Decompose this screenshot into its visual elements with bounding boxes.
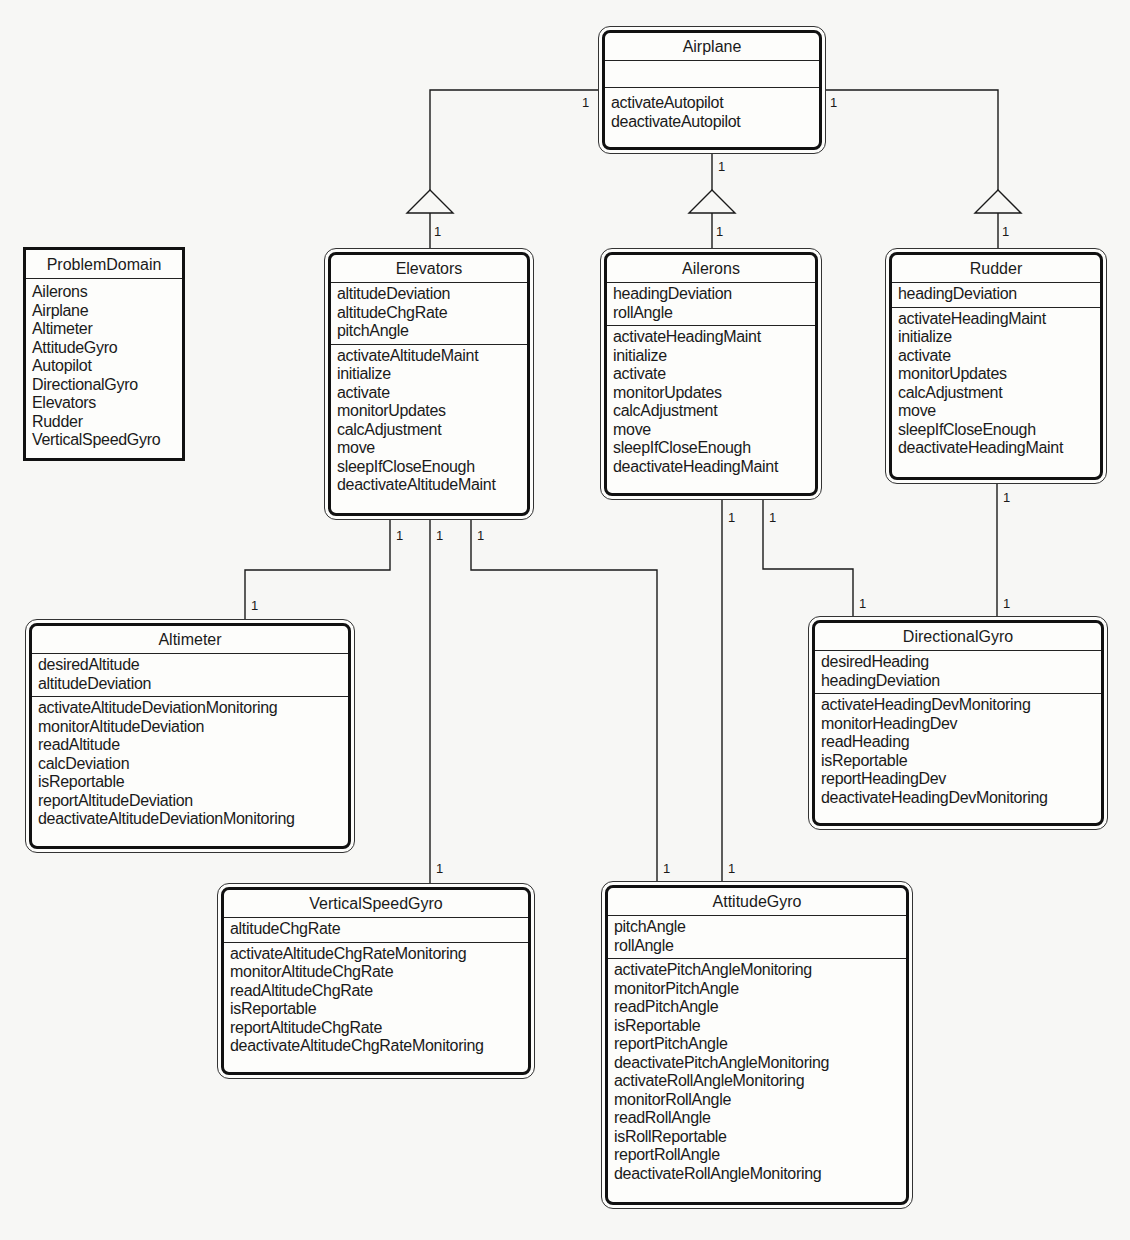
mult-attitude-from-elevators: 1: [663, 862, 670, 875]
class-altimeter[interactable]: Altimeter desiredAltitude altitudeDeviat…: [25, 619, 355, 853]
operation: readRollAngle: [614, 1109, 900, 1128]
class-attributes: [605, 61, 819, 88]
operation: activateHeadingMaint: [898, 310, 1094, 329]
mult-airplane-ailerons: 1: [718, 160, 725, 173]
aggregation-triangle-elevators-icon: [407, 190, 453, 213]
operation: activateAltitudeDeviationMonitoring: [38, 699, 342, 718]
problem-domain-title: ProblemDomain: [26, 250, 182, 279]
operation: reportAltitudeDeviation: [38, 792, 342, 811]
attribute: pitchAngle: [337, 322, 521, 341]
problem-domain-item[interactable]: AttitudeGyro: [32, 339, 176, 358]
operation: calcAdjustment: [337, 421, 521, 440]
operation: readPitchAngle: [614, 998, 900, 1017]
attribute: rollAngle: [614, 937, 900, 956]
class-airplane[interactable]: Airplane activateAutopilot deactivateAut…: [598, 26, 826, 154]
class-rudder[interactable]: Rudder headingDeviation activateHeadingM…: [885, 248, 1107, 484]
attribute: desiredAltitude: [38, 656, 342, 675]
operation: initialize: [613, 347, 809, 366]
class-attributes: pitchAngle rollAngle: [608, 916, 906, 959]
problem-domain-item[interactable]: Airplane: [32, 302, 176, 321]
operation: move: [613, 421, 809, 440]
class-name: Airplane: [605, 33, 819, 61]
class-directional-gyro[interactable]: DirectionalGyro desiredHeading headingDe…: [808, 616, 1108, 830]
operation: reportRollAngle: [614, 1146, 900, 1165]
mult-elevators-altimeter-src: 1: [396, 529, 403, 542]
problem-domain-item[interactable]: Elevators: [32, 394, 176, 413]
class-name: DirectionalGyro: [815, 623, 1101, 651]
operation: isRollReportable: [614, 1128, 900, 1147]
operation: deactivateRollAngleMonitoring: [614, 1165, 900, 1184]
class-name: Elevators: [331, 255, 527, 283]
operation: monitorUpdates: [613, 384, 809, 403]
operation: isReportable: [230, 1000, 522, 1019]
class-attributes: headingDeviation rollAngle: [607, 283, 815, 326]
class-operations: activateAltitudeDeviationMonitoring moni…: [32, 697, 348, 832]
operation: isReportable: [821, 752, 1095, 771]
class-attributes: desiredAltitude altitudeDeviation: [32, 654, 348, 697]
connector-airplane-elevators: [430, 90, 600, 190]
operation: reportHeadingDev: [821, 770, 1095, 789]
connector-elevators-altimeter: [245, 520, 390, 620]
class-attributes: altitudeDeviation altitudeChgRate pitchA…: [331, 283, 527, 345]
operation: monitorUpdates: [337, 402, 521, 421]
problem-domain-item[interactable]: Ailerons: [32, 283, 176, 302]
class-attitude-gyro[interactable]: AttitudeGyro pitchAngle rollAngle activa…: [601, 881, 913, 1209]
operation: monitorUpdates: [898, 365, 1094, 384]
class-operations: activateHeadingMaint initialize activate…: [892, 308, 1100, 461]
class-vertical-speed-gyro[interactable]: VerticalSpeedGyro altitudeChgRate activa…: [217, 883, 535, 1079]
attribute: altitudeDeviation: [337, 285, 521, 304]
mult-ailerons-top: 1: [716, 225, 723, 238]
operation: activateAltitudeMaint: [337, 347, 521, 366]
operation: activateRollAngleMonitoring: [614, 1072, 900, 1091]
attribute: altitudeChgRate: [230, 920, 522, 939]
operation: move: [898, 402, 1094, 421]
class-ailerons[interactable]: Ailerons headingDeviation rollAngle acti…: [600, 248, 822, 500]
operation: activate: [898, 347, 1094, 366]
problem-domain-item[interactable]: Autopilot: [32, 357, 176, 376]
operation: deactivateAltitudeMaint: [337, 476, 521, 495]
operation: isReportable: [614, 1017, 900, 1036]
operation: sleepIfCloseEnough: [898, 421, 1094, 440]
operation: deactivatePitchAngleMonitoring: [614, 1054, 900, 1073]
operation: sleepIfCloseEnough: [337, 458, 521, 477]
problem-domain-list: Ailerons Airplane Altimeter AttitudeGyro…: [26, 279, 182, 453]
mult-ailerons-attitude-src: 1: [728, 511, 735, 524]
operation: move: [337, 439, 521, 458]
class-name: Altimeter: [32, 626, 348, 654]
operation: calcAdjustment: [613, 402, 809, 421]
attribute: altitudeDeviation: [38, 675, 342, 694]
operation: activate: [613, 365, 809, 384]
class-attributes: altitudeChgRate: [224, 918, 528, 943]
class-elevators[interactable]: Elevators altitudeDeviation altitudeChgR…: [324, 248, 534, 520]
operation: activateHeadingDevMonitoring: [821, 696, 1095, 715]
operation: readAltitudeChgRate: [230, 982, 522, 1001]
mult-directional-from-rudder: 1: [1003, 597, 1010, 610]
operation: monitorRollAngle: [614, 1091, 900, 1110]
class-attributes: headingDeviation: [892, 283, 1100, 308]
mult-elevators-attitude-src: 1: [477, 529, 484, 542]
class-name: Ailerons: [607, 255, 815, 283]
class-name: Rudder: [892, 255, 1100, 283]
problem-domain-item[interactable]: Altimeter: [32, 320, 176, 339]
operation: activateAltitudeChgRateMonitoring: [230, 945, 522, 964]
operation: reportAltitudeChgRate: [230, 1019, 522, 1038]
operation: monitorAltitudeChgRate: [230, 963, 522, 982]
class-operations: activateAltitudeChgRateMonitoring monito…: [224, 943, 528, 1059]
operation: calcDeviation: [38, 755, 342, 774]
operation: isReportable: [38, 773, 342, 792]
operation: initialize: [898, 328, 1094, 347]
problem-domain-item[interactable]: Rudder: [32, 413, 176, 432]
attribute: desiredHeading: [821, 653, 1095, 672]
class-operations: activateAltitudeMaint initialize activat…: [331, 345, 527, 498]
operation: deactivateAltitudeChgRateMonitoring: [230, 1037, 522, 1056]
problem-domain-item[interactable]: DirectionalGyro: [32, 376, 176, 395]
mult-ailerons-directional-src: 1: [769, 511, 776, 524]
operation: deactivateHeadingMaint: [898, 439, 1094, 458]
problem-domain-item[interactable]: VerticalSpeedGyro: [32, 431, 176, 450]
class-name: VerticalSpeedGyro: [224, 890, 528, 918]
operation: activateHeadingMaint: [613, 328, 809, 347]
operation: monitorPitchAngle: [614, 980, 900, 999]
operation: activate: [337, 384, 521, 403]
mult-directional-from-ailerons: 1: [859, 597, 866, 610]
class-operations: activateHeadingMaint initialize activate…: [607, 326, 815, 479]
